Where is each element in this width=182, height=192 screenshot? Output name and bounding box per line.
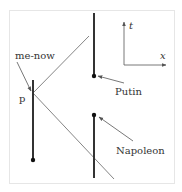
axis-t-label: t (129, 20, 134, 31)
me-worldline-endpoint (31, 158, 35, 162)
napoleon-worldline-endpoint (92, 113, 96, 117)
me-now-label: me-now (15, 50, 55, 61)
putin-pointer-arrow (98, 76, 124, 83)
point-p-label: p (19, 93, 25, 104)
future-light-cone-line (33, 36, 89, 93)
putin-worldline-endpoint (92, 74, 96, 78)
putin-label: Putin (115, 86, 142, 97)
me-now-pointer-arrow (17, 62, 31, 91)
axis-x-label: x (160, 50, 166, 61)
spacetime-diagram: t x me-now p Putin Napoleon (0, 0, 182, 192)
frame-border (10, 11, 175, 184)
napoleon-label: Napoleon (116, 145, 165, 156)
past-light-cone-line (33, 93, 114, 179)
napoleon-pointer-arrow (99, 117, 133, 141)
